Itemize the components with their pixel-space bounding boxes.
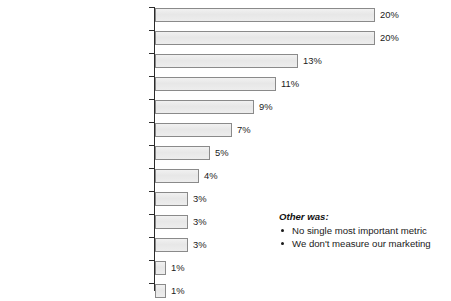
bar [155, 77, 276, 91]
bar [155, 54, 298, 68]
bar [155, 238, 188, 252]
other-annotation-item-text: No single most important metric [292, 225, 427, 236]
bar [155, 192, 188, 206]
bullet-icon [281, 229, 284, 232]
other-annotation: Other was: No single most important metr… [279, 211, 449, 250]
bar-value-label: 1% [171, 261, 185, 275]
bar-value-label: 11% [281, 77, 299, 91]
bar [155, 284, 166, 298]
bar [155, 31, 375, 45]
bar-chart: Conversion to Revenue20%Social Media Eng… [0, 0, 451, 301]
bar [155, 146, 210, 160]
bar [155, 215, 188, 229]
other-annotation-title: Other was: [279, 211, 449, 223]
bullet-icon [281, 242, 284, 245]
other-annotation-item: No single most important metric [279, 224, 449, 237]
bar [155, 8, 375, 22]
bar-value-label: 1% [171, 284, 185, 298]
bar [155, 100, 254, 114]
other-annotation-item-text: We don't measure our marketing [292, 238, 431, 249]
bar-value-label: 3% [193, 215, 207, 229]
bar-value-label: 4% [204, 169, 218, 183]
other-annotation-item: We don't measure our marketing [279, 237, 449, 250]
bar-value-label: 13% [303, 54, 322, 68]
plot-area: Conversion to Revenue20%Social Media Eng… [0, 0, 451, 301]
bar [155, 123, 232, 137]
bar-value-label: 9% [259, 100, 273, 114]
bar [155, 169, 199, 183]
bar-value-label: 3% [193, 192, 207, 206]
bar-value-label: 5% [215, 146, 229, 160]
bar-value-label: 20% [380, 8, 399, 22]
bar-value-label: 20% [380, 31, 399, 45]
other-annotation-list: No single most important metricWe don't … [279, 224, 449, 250]
bar [155, 261, 166, 275]
bar-value-label: 7% [237, 123, 251, 137]
bar-value-label: 3% [193, 238, 207, 252]
